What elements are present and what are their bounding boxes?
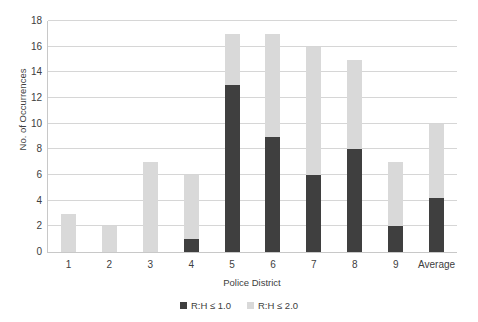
x-axis-tick-label: 9 [393, 259, 399, 270]
bar-stack[interactable] [143, 162, 158, 252]
x-axis-tick-label: 8 [352, 259, 358, 270]
bar-group: 7 [293, 21, 334, 252]
y-axis-tick-label: 8 [36, 143, 42, 154]
bar-stack[interactable] [61, 214, 76, 253]
bar-group: 8 [334, 21, 375, 252]
bar-segment-rh-1[interactable] [347, 149, 362, 252]
bar-stack[interactable] [184, 175, 199, 252]
y-axis-tick-label: 14 [31, 66, 42, 77]
legend-label: R:H ≤ 1.0 [191, 300, 231, 311]
plot-area: 024681012141618 123456789Average [47, 21, 457, 253]
bar-segment-rh-2[interactable] [61, 214, 76, 253]
chart-legend: R:H ≤ 1.0R:H ≤ 2.0 [0, 300, 478, 311]
y-axis-tick-label: 6 [36, 169, 42, 180]
bar-segment-rh-2[interactable] [184, 175, 199, 239]
bar-segment-rh-1[interactable] [429, 198, 444, 252]
bar-segment-rh-1[interactable] [225, 85, 240, 252]
bar-stack[interactable] [102, 226, 117, 252]
bar-segment-rh-2[interactable] [143, 162, 158, 252]
bar-segment-rh-2[interactable] [225, 34, 240, 85]
bar-group: 5 [212, 21, 253, 252]
bar-group: 2 [89, 21, 130, 252]
x-axis-tick-label: Average [418, 259, 455, 270]
bar-group: 3 [130, 21, 171, 252]
x-axis-title: Police District [47, 277, 457, 288]
bar-group: Average [416, 21, 457, 252]
x-axis-tick-label: 2 [107, 259, 113, 270]
bar-group: 4 [171, 21, 212, 252]
legend-item[interactable]: R:H ≤ 1.0 [180, 300, 231, 311]
y-axis-tick-label: 4 [36, 194, 42, 205]
bar-stack[interactable] [388, 162, 403, 252]
y-axis-tick-label: 2 [36, 220, 42, 231]
legend-swatch-icon [247, 302, 254, 309]
bars-container: 123456789Average [48, 21, 457, 252]
x-axis-tick-label: 6 [270, 259, 276, 270]
bar-group: 9 [375, 21, 416, 252]
bar-stack[interactable] [225, 34, 240, 252]
bar-group: 6 [253, 21, 294, 252]
x-axis-tick-label: 4 [188, 259, 194, 270]
bar-segment-rh-2[interactable] [102, 226, 117, 252]
x-axis-tick-label: 7 [311, 259, 317, 270]
bar-stack[interactable] [347, 60, 362, 252]
bar-segment-rh-2[interactable] [306, 47, 321, 175]
x-axis-tick-label: 3 [147, 259, 153, 270]
y-axis-tick-label: 16 [31, 40, 42, 51]
bar-segment-rh-1[interactable] [184, 239, 199, 252]
y-axis-tick-label: 0 [36, 246, 42, 257]
legend-label: R:H ≤ 2.0 [258, 300, 298, 311]
x-axis-tick-label: 1 [66, 259, 72, 270]
bar-group: 1 [48, 21, 89, 252]
y-axis-tick-label: 10 [31, 117, 42, 128]
y-axis-tick-label: 12 [31, 92, 42, 103]
y-axis-title: No. of Occurrences [17, 40, 28, 180]
bar-segment-rh-1[interactable] [265, 137, 280, 253]
bar-segment-rh-1[interactable] [388, 226, 403, 252]
bar-stack[interactable] [265, 34, 280, 252]
bar-segment-rh-2[interactable] [429, 124, 444, 198]
bar-segment-rh-2[interactable] [265, 34, 280, 137]
bar-segment-rh-2[interactable] [388, 162, 403, 226]
bar-stack[interactable] [306, 47, 321, 252]
stacked-bar-chart: No. of Occurrences 024681012141618 12345… [0, 0, 478, 322]
legend-item[interactable]: R:H ≤ 2.0 [247, 300, 298, 311]
bar-stack[interactable] [429, 124, 444, 252]
legend-swatch-icon [180, 302, 187, 309]
bar-segment-rh-1[interactable] [306, 175, 321, 252]
y-axis-tick-label: 18 [31, 15, 42, 26]
x-axis-tick-label: 5 [229, 259, 235, 270]
bar-segment-rh-2[interactable] [347, 60, 362, 150]
